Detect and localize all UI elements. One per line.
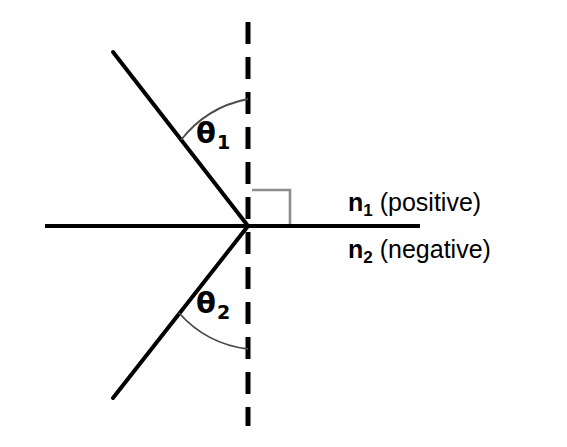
refraction-diagram: θ1 θ2 n1 (positive) n2 (negative) (0, 0, 567, 447)
theta1-arc (181, 99, 248, 140)
theta2-arc (179, 313, 248, 349)
right-angle-marker (252, 190, 290, 226)
incident-ray (113, 52, 248, 226)
refracted-ray (113, 226, 248, 398)
diagram-canvas (0, 0, 567, 447)
